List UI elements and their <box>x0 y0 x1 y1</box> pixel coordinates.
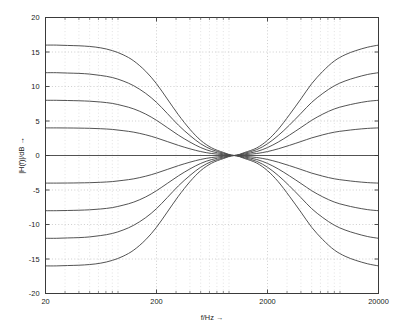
x-tick-label: 2000 <box>259 297 275 306</box>
x-axis-title: f/Hz → <box>201 313 224 322</box>
figure-canvas: 20200200020000-20-15-10-505101520 f/Hz →… <box>0 0 407 330</box>
y-tick-label: 20 <box>31 13 39 22</box>
x-tick-label: 20000 <box>368 297 389 306</box>
y-tick-label: 5 <box>35 117 39 126</box>
y-axis-title: |H(f)|/dB → <box>17 137 26 174</box>
y-tick-label: -20 <box>29 289 40 298</box>
y-tick-label: -10 <box>29 220 40 229</box>
x-tick-label: 20 <box>41 297 49 306</box>
bode-magnitude-chart: 20200200020000-20-15-10-505101520 f/Hz →… <box>0 0 407 330</box>
y-tick-label: 10 <box>31 82 39 91</box>
y-tick-label: -5 <box>33 186 40 195</box>
y-tick-label: 15 <box>31 48 39 57</box>
x-tick-label: 200 <box>150 297 162 306</box>
y-tick-label: 0 <box>35 151 39 160</box>
y-tick-label: -15 <box>29 255 40 264</box>
